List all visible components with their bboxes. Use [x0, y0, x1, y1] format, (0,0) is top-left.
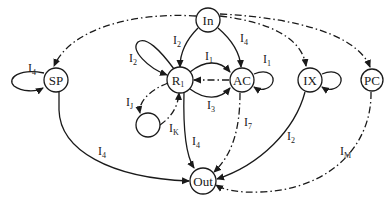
edge-ac-loop [254, 72, 273, 89]
state-diagram: In SP R1 AC IX PC Out I2 I4 I4 I2 I1 I3 … [0, 0, 388, 202]
node-pc-label: PC [364, 73, 380, 88]
node-ac-label: AC [233, 73, 251, 88]
node-in: In [196, 8, 220, 32]
node-sp: SP [44, 68, 68, 92]
label-ac-out: I7 [244, 115, 252, 131]
label-k-r1: IK [169, 121, 179, 137]
edge-sp-to-out [59, 92, 189, 181]
edge-in-to-r1 [180, 28, 198, 67]
label-ix-out: I2 [287, 129, 295, 145]
edge-r1-to-out [184, 92, 194, 168]
node-pc: PC [361, 69, 383, 91]
label-r1-ac-top: I1 [205, 49, 213, 65]
label-r1-out: I4 [192, 134, 200, 150]
label-sp-loop: I4 [28, 61, 36, 77]
node-ac: AC [230, 68, 254, 92]
label-ac-loop: I1 [263, 52, 271, 68]
node-ix: IX [298, 68, 322, 92]
label-in-r1: I2 [173, 33, 181, 49]
edge-in-to-ac [218, 28, 241, 67]
edge-r1-to-ac-bottom [190, 88, 230, 97]
edge-ix-loop [322, 72, 341, 89]
node-out-label: Out [193, 174, 213, 189]
edge-r1-to-k [140, 83, 168, 113]
edge-ac-to-out [214, 93, 240, 172]
node-out: Out [190, 168, 216, 194]
label-sp-out: I4 [98, 144, 106, 160]
label-pc-out: IM [340, 144, 351, 160]
label-r1-ac-bottom: I3 [207, 98, 215, 114]
node-in-label: In [203, 13, 214, 28]
node-k-unlabeled [136, 113, 160, 137]
label-r1-loop: I2 [129, 51, 137, 67]
node-sp-label: SP [49, 73, 63, 88]
edge-r1-loop [136, 41, 174, 75]
label-in-ac: I4 [240, 31, 248, 47]
label-r1-k: IJ [126, 95, 133, 111]
node-r1: R1 [167, 67, 193, 93]
node-ix-label: IX [303, 73, 317, 88]
